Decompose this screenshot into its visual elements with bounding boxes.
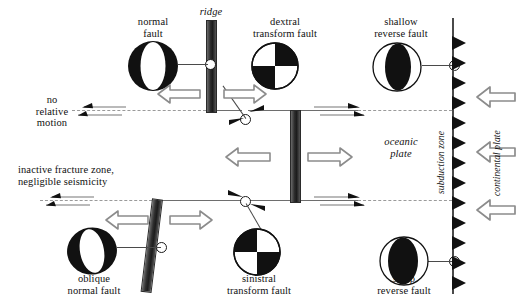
- shear-arrow-pair-upper-right: [312, 100, 366, 122]
- label-no-relative-motion: no relative motion: [24, 94, 80, 129]
- label-inactive-fracture-zone: inactive fracture zone, negligible seism…: [18, 164, 170, 187]
- shallow-reverse-beachball: [372, 42, 422, 92]
- sinistral-transform-beachball: [233, 228, 281, 276]
- transform-line-lower-mid: [248, 200, 294, 201]
- spreading-arrow-east-central: [306, 146, 354, 168]
- figure-canvas: normal fault ridge dextral transform fau…: [0, 0, 522, 301]
- shear-half-arrow-node-lower-b: [249, 203, 267, 213]
- oblique-normal-beachball: [62, 223, 122, 279]
- fracture-zone-dashed-upper-right: [358, 110, 452, 111]
- ridge-segment-central: [290, 110, 301, 203]
- leader-oblique-normal: [117, 247, 161, 248]
- shear-half-arrow-node-upper-b: [227, 117, 245, 127]
- shear-half-arrow-node-lower-a: [226, 189, 244, 199]
- label-ridge: ridge: [185, 6, 237, 18]
- label-dextral-transform-fault: dextral transform fault: [238, 16, 332, 39]
- spreading-arrow-west-central: [224, 146, 272, 168]
- spreading-arrow-east-north: [222, 83, 268, 105]
- shear-arrow-pair-inactive: [44, 190, 96, 212]
- transform-line-lower-left: [162, 200, 242, 201]
- subduction-barbs: [452, 20, 470, 294]
- shear-arrow-pair-lower-right: [312, 190, 366, 212]
- label-continental-plate: continental plate: [492, 118, 504, 208]
- spreading-arrow-east-south: [168, 209, 214, 231]
- shear-half-arrow-node-upper-a: [248, 104, 266, 114]
- convergence-arrow-upper: [475, 85, 517, 109]
- spreading-arrow-west-north: [156, 83, 202, 105]
- leader-normal-fault: [178, 64, 208, 65]
- label-oblique-normal-fault: oblique normal fault: [56, 273, 132, 296]
- label-steep-reverse-fault: steep reverse fault: [358, 273, 450, 296]
- label-subduction-zone: subduction zone: [436, 120, 448, 206]
- label-normal-fault: normal fault: [118, 16, 188, 39]
- label-shallow-reverse-fault: shallow reverse fault: [355, 16, 447, 39]
- shear-arrow-pair-no-motion: [76, 100, 128, 122]
- label-oceanic-plate: oceanic plate: [370, 136, 432, 159]
- leader-steep-reverse: [428, 261, 453, 262]
- label-sinistral-transform-fault: sinistral transform fault: [212, 273, 306, 296]
- leader-shallow-reverse: [422, 65, 452, 66]
- spreading-arrow-west-south: [104, 209, 150, 231]
